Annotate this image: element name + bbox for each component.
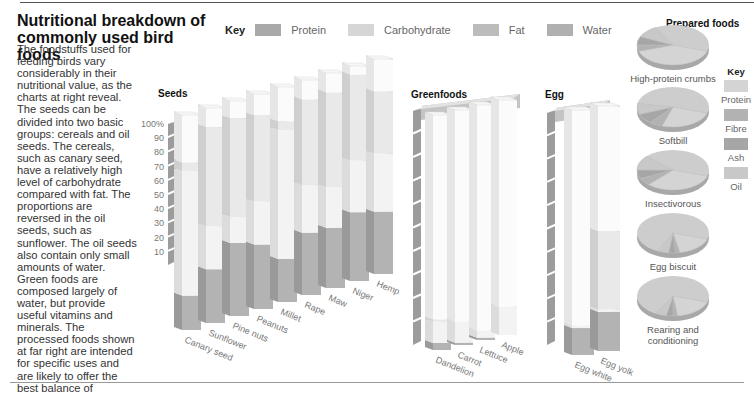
- pie-label: Rearing and conditioning: [618, 324, 728, 346]
- prepared-swatch-protein: [724, 80, 748, 92]
- prepared-label-ash: Ash: [719, 152, 753, 163]
- prepared-label-oil: Oil: [719, 181, 753, 192]
- prepared-legend: Key Protein Fibre Ash Oil: [719, 66, 753, 196]
- prepared-swatch-fibre: [724, 109, 748, 121]
- bottom-rule: [10, 382, 744, 383]
- prepared-label-fibre: Fibre: [719, 123, 753, 134]
- prepared-swatch-oil: [724, 167, 748, 179]
- prepared-swatch-ash: [724, 138, 748, 150]
- prepared-legend-title: Key: [719, 66, 753, 77]
- prepared-label-protein: Protein: [719, 94, 753, 105]
